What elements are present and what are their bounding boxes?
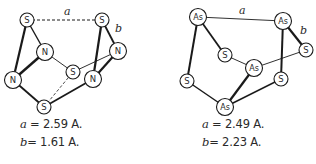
as4s4-caption-b: b= 2.23 A. <box>202 135 261 149</box>
svg-text:As: As <box>249 64 259 73</box>
svg-text:N: N <box>42 47 48 57</box>
atom-s: S <box>218 48 232 62</box>
svg-text:S: S <box>278 74 283 84</box>
atom-n: N <box>85 71 102 88</box>
atom-as: As <box>190 9 207 26</box>
svg-text:S: S <box>41 102 46 112</box>
atom-as: As <box>217 99 234 116</box>
svg-text:S: S <box>184 76 189 86</box>
svg-text:S: S <box>99 15 104 25</box>
atom-s: S <box>66 65 80 79</box>
atom-n: N <box>5 72 22 89</box>
atom-as: As <box>275 13 292 30</box>
s4n4-caption-a: a = 2.59 A. <box>20 117 82 131</box>
atom-s: S <box>299 43 313 57</box>
svg-text:As: As <box>220 103 230 112</box>
bond-as1-sc <box>187 17 198 81</box>
svg-text:S: S <box>222 50 227 60</box>
atom-s: S <box>20 13 34 27</box>
atom-s: S <box>180 74 194 88</box>
svg-text:As: As <box>278 17 288 26</box>
atom-s: S <box>95 13 109 27</box>
atom-s: S <box>37 100 51 114</box>
svg-text:As: As <box>193 13 203 22</box>
atom-as: As <box>246 60 263 77</box>
bond-label-b: b <box>115 22 122 35</box>
as4s4-caption-a: a = 2.49 A. <box>202 117 264 131</box>
atom-n: N <box>37 44 54 61</box>
bond-label-a: a <box>64 5 71 18</box>
as4s4-molecule: abAsAsSSAsSSAs <box>180 4 313 116</box>
s4n4-caption-b: b= 1.61 A. <box>20 135 79 149</box>
bond-label-a: a <box>239 4 246 17</box>
bond-as4-sd <box>225 79 281 107</box>
svg-text:N: N <box>10 75 16 85</box>
svg-text:S: S <box>70 67 75 77</box>
s4n4-molecule: abSSNNSNNS <box>5 5 127 114</box>
svg-text:S: S <box>303 45 308 55</box>
svg-text:S: S <box>24 15 29 25</box>
atom-n: N <box>110 43 127 60</box>
atom-s: S <box>274 72 288 86</box>
bond-as1-as2 <box>198 17 283 21</box>
svg-text:N: N <box>115 46 121 56</box>
svg-text:N: N <box>90 74 96 84</box>
bond-label-b: b <box>300 24 307 37</box>
